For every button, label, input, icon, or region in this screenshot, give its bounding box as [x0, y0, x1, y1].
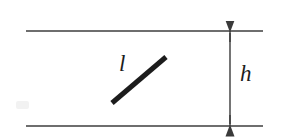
channel-height-label: h	[240, 62, 252, 85]
figure-canvas: l h	[0, 0, 285, 137]
rod-length-label: l	[119, 52, 125, 75]
